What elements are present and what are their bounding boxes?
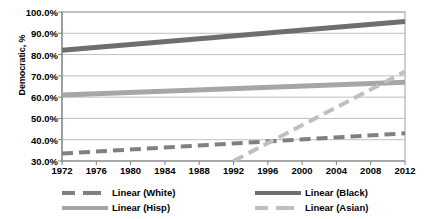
legend-line-dash-0 [255, 206, 268, 210]
legend-item-linearhisp[interactable]: Linear (Hisp) [62, 203, 170, 213]
series-line-linearhisp [62, 82, 405, 95]
legend-label: Linear (Asian) [305, 203, 368, 213]
legend-label: Linear (Black) [305, 188, 368, 198]
legend-item-linearwhite[interactable]: Linear (White) [62, 188, 175, 198]
legend-item-linearblack[interactable]: Linear (Black) [255, 188, 368, 198]
legend-swatch-linearblack [255, 188, 301, 198]
legend-swatch-linearhisp [62, 203, 108, 213]
legend-line-dash-1 [276, 206, 294, 210]
legend-line-dash-0 [62, 191, 75, 195]
series-line-linearwhite [62, 133, 405, 153]
legend-line-solid [255, 191, 301, 195]
legend-label: Linear (Hisp) [112, 203, 170, 213]
legend-item-linearasian[interactable]: Linear (Asian) [255, 203, 368, 213]
legend-line-solid [62, 206, 108, 210]
series-line-linearblack [62, 22, 405, 51]
legend-swatch-linearwhite [62, 188, 108, 198]
chart-container: Democratic, % 100.0%90.0%80.0%70.0%60.0%… [0, 0, 424, 219]
legend-swatch-linearasian [255, 203, 301, 213]
legend-line-dash-1 [83, 191, 101, 195]
legend-label: Linear (White) [112, 188, 175, 198]
